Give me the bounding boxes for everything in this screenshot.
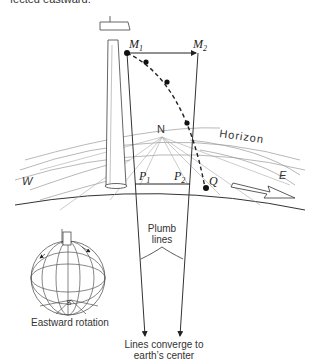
- label-plumb: Plumb: [148, 223, 177, 234]
- label-s: S: [66, 298, 71, 307]
- label-w: W: [22, 175, 34, 187]
- label-converge: Lines converge to: [125, 339, 204, 350]
- tower: [100, 16, 130, 189]
- plumb-brace: [141, 247, 183, 259]
- label-eastward-rotation: Eastward rotation: [31, 317, 109, 328]
- label-lines: lines: [152, 234, 173, 245]
- trajectory-points: [124, 50, 209, 191]
- label-p2: P2: [173, 169, 185, 185]
- label-p1: P1: [138, 169, 150, 185]
- label-earth-center: earth’s center: [134, 350, 195, 361]
- earth-surface: [15, 194, 305, 210]
- label-q: Q: [209, 174, 218, 188]
- label-m2: M2: [192, 37, 207, 53]
- falling-body-diagram: M1 M2 N Horizon W E P1 P2 Q Plumb lines …: [0, 0, 316, 361]
- label-e: E: [279, 169, 287, 181]
- label-horizon: Horizon: [219, 127, 265, 145]
- eastward-arrow: [231, 183, 295, 198]
- label-n: N: [157, 123, 165, 135]
- label-m1: M1: [128, 37, 143, 53]
